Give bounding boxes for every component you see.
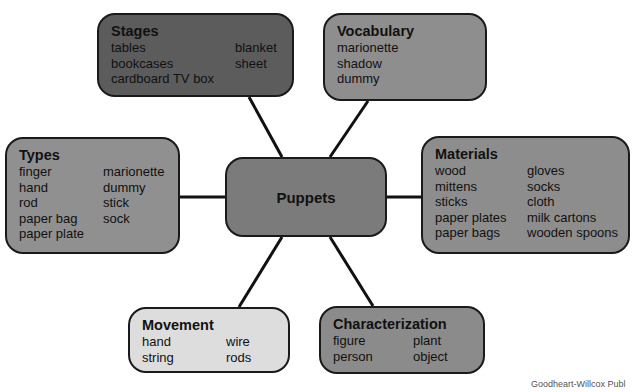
list-item: paper plate	[19, 226, 103, 242]
publisher-credit: Goodheart-Willcox Publ	[531, 379, 626, 389]
list-item: marionette	[103, 164, 164, 180]
list-item: stick	[103, 195, 164, 211]
list-item: wooden spoons	[527, 225, 618, 241]
node-materials: Materials wood mittens sticks paper plat…	[421, 136, 630, 254]
list-item: figure	[333, 333, 413, 349]
list-item: rods	[226, 350, 251, 366]
node-title: Types	[19, 147, 178, 164]
connector-characterization	[330, 237, 373, 306]
list-item: sock	[103, 211, 164, 227]
list-item: cardboard TV box	[111, 71, 235, 87]
node-title: Stages	[111, 23, 292, 40]
list-item: paper bag	[19, 211, 103, 227]
list-item: mittens	[435, 179, 527, 195]
list-item: gloves	[527, 163, 618, 179]
center-title: Puppets	[276, 189, 335, 206]
node-vocabulary: Vocabulary marionette shadow dummy	[323, 13, 487, 101]
list-item: tables	[111, 40, 235, 56]
node-title: Movement	[142, 317, 288, 334]
list-item: paper bags	[435, 225, 527, 241]
node-title: Characterization	[333, 316, 483, 333]
node-title: Vocabulary	[337, 23, 485, 40]
list-item: milk cartons	[527, 210, 618, 226]
list-item: bookcases	[111, 56, 235, 72]
list-item: rod	[19, 195, 103, 211]
connector-vocabulary	[330, 101, 368, 157]
list-item: person	[333, 349, 413, 365]
list-item: sheet	[235, 56, 277, 72]
list-item: wire	[226, 334, 251, 350]
list-item: finger	[19, 164, 103, 180]
list-item: dummy	[103, 180, 164, 196]
node-stages: Stages tables bookcases cardboard TV box…	[97, 13, 294, 97]
list-item: paper plates	[435, 210, 527, 226]
list-item: dummy	[337, 71, 398, 87]
list-item: shadow	[337, 56, 398, 72]
node-title: Materials	[435, 146, 628, 163]
node-characterization: Characterization figure person plant obj…	[319, 306, 485, 374]
connector-stages	[249, 97, 282, 157]
list-item: hand	[142, 334, 226, 350]
list-item: socks	[527, 179, 618, 195]
node-center-puppets: Puppets	[225, 157, 387, 237]
list-item: marionette	[337, 40, 398, 56]
list-item: blanket	[235, 40, 277, 56]
list-item: string	[142, 350, 226, 366]
list-item: hand	[19, 180, 103, 196]
list-item: plant	[413, 333, 448, 349]
list-item: cloth	[527, 194, 618, 210]
list-item: sticks	[435, 194, 527, 210]
list-item: object	[413, 349, 448, 365]
node-types: Types finger hand rod paper bag paper pl…	[5, 137, 180, 254]
list-item: wood	[435, 163, 527, 179]
node-movement: Movement hand string wire rods	[128, 307, 290, 373]
connector-movement	[239, 237, 282, 307]
